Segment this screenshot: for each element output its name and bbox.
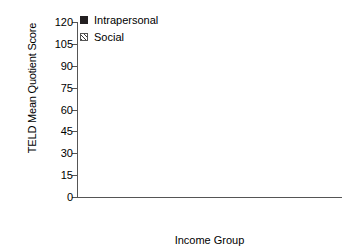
legend-swatch-solid-icon	[80, 16, 88, 24]
bar-chart: TELD Mean Quotient Score 015304560759010…	[0, 0, 364, 250]
y-tick-label: 60	[61, 104, 73, 116]
plot-area: 0153045607590105120 Income Group	[77, 22, 342, 197]
legend-item-social: Social	[80, 29, 158, 44]
legend-label: Social	[94, 31, 124, 43]
y-tick-label: 120	[55, 16, 73, 28]
y-axis-title: TELD Mean Quotient Score	[26, 0, 38, 178]
legend: Intrapersonal Social	[80, 12, 158, 46]
y-axis-line	[77, 22, 78, 197]
y-tick-label: 75	[61, 82, 73, 94]
y-tick-label: 90	[61, 60, 73, 72]
legend-label: Intrapersonal	[94, 14, 158, 26]
x-axis-title: Income Group	[77, 234, 342, 246]
y-tick-label: 15	[61, 169, 73, 181]
y-tick-label: 105	[55, 38, 73, 50]
legend-item-intrapersonal: Intrapersonal	[80, 12, 158, 27]
legend-swatch-hatch-icon	[80, 33, 88, 41]
y-tick-label: 0	[67, 191, 73, 203]
y-tick-label: 45	[61, 125, 73, 137]
x-axis-line	[77, 197, 342, 198]
y-tick-label: 30	[61, 147, 73, 159]
